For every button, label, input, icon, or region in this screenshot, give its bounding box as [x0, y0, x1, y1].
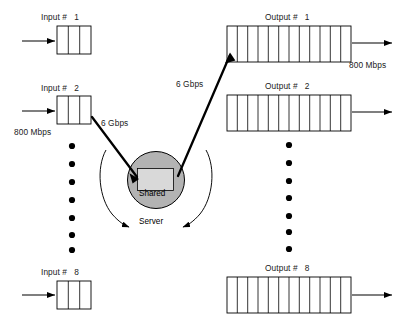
input-queue-8-group — [22, 281, 91, 309]
right-dot — [286, 178, 292, 184]
input-queue-8-label: Input # 8 — [41, 268, 79, 276]
input-queue-1-group — [22, 26, 91, 54]
right-dot — [286, 195, 292, 201]
input-queue-2-label: Input # 2 — [41, 84, 79, 92]
output-queue-8-label: Output # 8 — [265, 264, 310, 272]
right-feedback-arc — [183, 150, 212, 227]
output-queue-2-label: Output # 2 — [265, 82, 310, 90]
input-queue-2-group — [22, 96, 91, 124]
input-rate-label: 800 Mbps — [14, 128, 51, 136]
input-queue-2-box — [57, 96, 91, 124]
output-queue-1-group — [227, 26, 392, 62]
output-queue-1-label: Output # 1 — [265, 13, 310, 21]
right-dot — [286, 246, 292, 252]
output-rate-label: 800 Mbps — [349, 61, 386, 69]
input-queue-1-label: Input # 1 — [41, 13, 79, 21]
diagram-canvas: Input # 1 Input # 2 Input # 8 800 Mbps O… — [0, 0, 408, 327]
right-ellipsis-dots — [286, 142, 292, 252]
left-dot — [69, 179, 75, 185]
output-queue-8-group — [227, 277, 392, 313]
input-queue-8-box — [57, 281, 91, 309]
shared-server-label-line2: Server — [139, 217, 165, 227]
left-dot — [69, 215, 75, 221]
shared-server-label: Shared Server — [139, 170, 165, 246]
left-dot — [69, 247, 75, 253]
right-dot — [286, 160, 292, 166]
server-to-output1-link — [178, 55, 230, 176]
left-ellipsis-dots — [69, 143, 75, 253]
output-link-rate-label: 6 Gbps — [176, 80, 203, 88]
input-link-rate-label: 6 Gbps — [101, 119, 128, 127]
left-dot — [69, 197, 75, 203]
input-queue-1-box — [57, 26, 91, 54]
right-dot — [286, 142, 292, 148]
left-dot — [69, 161, 75, 167]
output-queue-2-group — [227, 95, 392, 131]
left-dot — [69, 143, 75, 149]
right-dot — [286, 213, 292, 219]
shared-server-label-line1: Shared — [139, 189, 165, 199]
diagram-vector-layer — [0, 0, 408, 327]
right-dot — [286, 229, 292, 235]
left-dot — [69, 232, 75, 238]
